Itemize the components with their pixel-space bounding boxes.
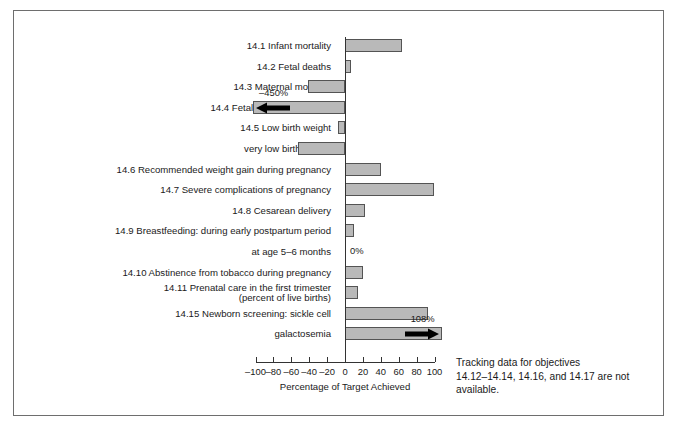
x-axis-tick-label: 60 [393,366,403,377]
x-axis-tick-label: –60 [283,366,299,377]
chart-row: 14.11 Prenatal care in the first trimest… [14,282,665,304]
bar-label: 14.11 Prenatal care in the first trimest… [164,282,331,304]
x-axis-tick-label: 20 [358,366,368,377]
x-axis-tick [345,357,346,362]
x-axis-tick [435,357,436,362]
chart-row: 14.15 Newborn screening: sickle cell [14,303,665,325]
chart-row: galactosemia108% [14,323,665,345]
side-note-line-2: 14.12–14.14, 14.16, and 14.17 are not [456,370,656,384]
chart-row: 14.4 Fetal alcohol syndrome–450% [14,97,665,119]
x-axis-tick [327,357,328,362]
x-axis-tick [291,357,292,362]
bar [345,286,358,299]
x-axis-line [256,362,435,363]
x-axis-tick [363,357,364,362]
bar-label: 14.10 Abstinence from tobacco during pre… [122,262,331,284]
bar [345,39,402,52]
chart-row: 14.8 Cesarean delivery [14,200,665,222]
bar-label: 14.9 Breastfeeding: during early postpar… [115,220,331,242]
bar-value-annotation: 108% [411,313,435,324]
bar [345,183,434,196]
chart-row: 14.1 Infant mortality [14,35,665,57]
bar [345,163,381,176]
x-axis-tick [256,357,257,362]
bar-value-annotation: –450% [259,87,288,98]
x-axis-tick [399,357,400,362]
side-note-line-1: Tracking data for objectives [456,356,656,370]
x-axis-tick [417,357,418,362]
bar [308,80,345,93]
x-axis-tick-label: –20 [319,366,335,377]
x-axis-tick-label: 80 [411,366,421,377]
bar-label: 14.8 Cesarean delivery [232,200,331,222]
x-axis-tick-label: 0 [342,366,347,377]
bar-value-annotation: 0% [350,245,364,256]
chart-row: 14.3 Maternal mortality [14,76,665,98]
bar [345,266,363,279]
chart-figure-frame: 14.1 Infant mortality14.2 Fetal deaths14… [13,10,664,416]
bar-chart-plot: 14.1 Infant mortality14.2 Fetal deaths14… [14,11,665,417]
chart-row: 14.2 Fetal deaths [14,56,665,78]
bar [345,204,365,217]
chart-row: 14.5 Low birth weight [14,117,665,139]
bar-label: 14.15 Newborn screening: sickle cell [175,303,331,325]
x-axis-tick-label: –100 [245,366,266,377]
x-axis-title: Percentage of Target Achieved [280,381,411,392]
bar [345,224,354,237]
bar-label: 14.6 Recommended weight gain during preg… [117,159,331,181]
chart-row: 14.10 Abstinence from tobacco during pre… [14,262,665,284]
side-note-line-3: available. [456,383,656,397]
chart-row: 14.9 Breastfeeding: during early postpar… [14,220,665,242]
chart-side-note: Tracking data for objectives 14.12–14.14… [456,356,656,397]
bar-label: 14.7 Severe complications of pregnancy [160,179,331,201]
x-axis-tick [309,357,310,362]
chart-row: very low birth weight [14,138,665,160]
x-axis-tick-label: 40 [376,366,386,377]
x-axis-tick-label: –80 [266,366,282,377]
x-axis-tick-label: –40 [301,366,317,377]
x-axis-tick-label: 100 [427,366,443,377]
right-arrow-icon [399,328,439,341]
chart-row: 14.7 Severe complications of pregnancy [14,179,665,201]
bar [298,142,345,155]
x-axis-tick [381,357,382,362]
chart-row: 14.6 Recommended weight gain during preg… [14,159,665,181]
bar [338,121,345,134]
x-axis-tick [273,357,274,362]
zero-axis-line [345,37,346,362]
bar-label: 14.5 Low birth weight [240,117,331,139]
bar-label: 14.1 Infant mortality [247,35,331,57]
bar-label: 14.2 Fetal deaths [257,56,331,78]
left-arrow-icon [256,102,296,115]
chart-row: at age 5–6 months0% [14,241,665,263]
bar-label: galactosemia [274,323,331,345]
bar-label: at age 5–6 months [252,241,331,263]
